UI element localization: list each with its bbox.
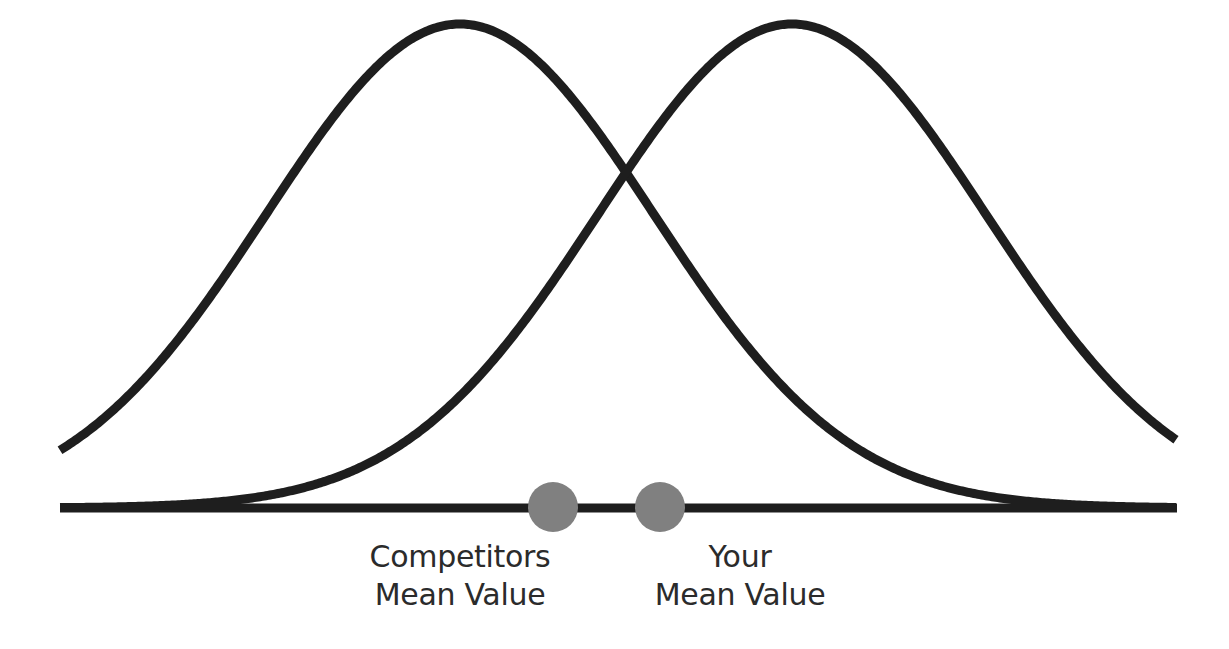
your-mean-label-line2: Mean Value	[620, 576, 860, 614]
competitors-mean-marker	[528, 482, 578, 532]
competitors-distribution-curve	[60, 24, 1176, 507]
competitors-mean-label-line2: Mean Value	[340, 576, 580, 614]
competitors-mean-label-line1: Competitors	[340, 538, 580, 576]
your-mean-marker	[635, 482, 685, 532]
your-mean-label-line1: Your	[620, 538, 860, 576]
your-mean-label: Your Mean Value	[620, 538, 860, 614]
distribution-diagram	[0, 0, 1229, 649]
competitors-mean-label: Competitors Mean Value	[340, 538, 580, 614]
